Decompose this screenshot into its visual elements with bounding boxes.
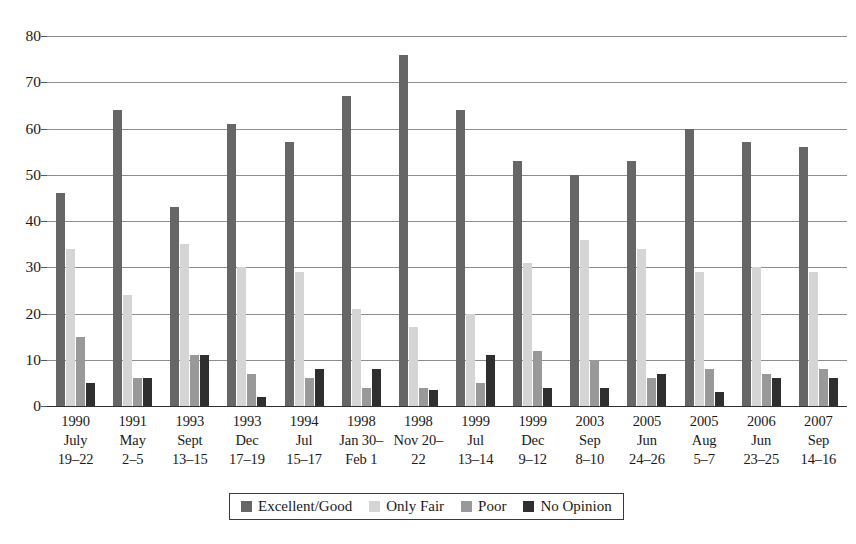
x-tick-label-line: 2–5 [104, 450, 161, 469]
bar [133, 378, 142, 406]
legend-item[interactable]: Excellent/Good [241, 498, 352, 515]
bar-group [790, 36, 847, 406]
legend-swatch-icon [369, 501, 380, 512]
y-tick-label-10: 10 [7, 352, 41, 368]
bar [123, 295, 132, 406]
bar-group [47, 36, 104, 406]
x-tick-label: 2006Jun23–25 [733, 412, 790, 469]
x-tick-label-line: 9–12 [504, 450, 561, 469]
x-tick-label-line: 2005 [676, 412, 733, 431]
x-tick-label-line: Sep [790, 431, 847, 450]
x-tick-label-line: 1993 [218, 412, 275, 431]
x-tick-label-line: 2005 [618, 412, 675, 431]
x-tick-label-line: Sept [161, 431, 218, 450]
x-tick-label: 1998Jan 30–Feb 1 [333, 412, 390, 469]
x-tick-label-line: 1991 [104, 412, 161, 431]
x-tick-label-line: 1999 [504, 412, 561, 431]
y-tick-label-60: 60 [7, 121, 41, 137]
bar [829, 378, 838, 406]
x-tick-label-line: 2003 [561, 412, 618, 431]
bar [533, 351, 542, 407]
x-tick-label: 2007Sep14–16 [790, 412, 847, 469]
bar-group [104, 36, 161, 406]
bar [285, 142, 294, 406]
x-tick-label: 1998Nov 20–22 [390, 412, 447, 469]
bar [56, 193, 65, 406]
bar [305, 378, 314, 406]
bar [86, 383, 95, 406]
bar-groups [47, 36, 847, 406]
bar [409, 327, 418, 406]
bar [237, 267, 246, 406]
bar-group [733, 36, 790, 406]
legend-item[interactable]: Poor [461, 498, 506, 515]
bar [647, 378, 656, 406]
x-tick-label-line: 1998 [333, 412, 390, 431]
y-tick-label-30: 30 [7, 259, 41, 275]
bar-group [333, 36, 390, 406]
bar [399, 55, 408, 407]
bar [76, 337, 85, 406]
bar [170, 207, 179, 406]
y-tick-label-20: 20 [7, 306, 41, 322]
bar [762, 374, 771, 406]
y-axis: 01020304050607080 [0, 36, 41, 406]
bar [715, 392, 724, 406]
bar [685, 129, 694, 407]
bar [66, 249, 75, 406]
x-tick-label-line: July [47, 431, 104, 450]
x-tick-label-line: Dec [218, 431, 275, 450]
legend-item[interactable]: Only Fair [369, 498, 444, 515]
x-tick-label-line: 8–10 [561, 450, 618, 469]
chart-legend: Excellent/GoodOnly FairPoorNo Opinion [229, 493, 624, 520]
x-tick-label-line: 13–15 [161, 450, 218, 469]
bar [456, 110, 465, 406]
x-tick-label-line: 17–19 [218, 450, 275, 469]
bar [752, 267, 761, 406]
bar [809, 272, 818, 406]
x-tick-label-line: 2007 [790, 412, 847, 431]
bar [570, 175, 579, 406]
bar [819, 369, 828, 406]
x-axis-labels: 1990July19–221991May2–51993Sept13–151993… [47, 412, 847, 469]
bar [772, 378, 781, 406]
bar [543, 388, 552, 407]
x-tick-label: 1993Sept13–15 [161, 412, 218, 469]
bar [705, 369, 714, 406]
legend-label: Poor [478, 498, 506, 515]
x-tick-label-line: 23–25 [733, 450, 790, 469]
bar [295, 272, 304, 406]
bar [466, 314, 475, 407]
x-tick-label-line: 24–26 [618, 450, 675, 469]
bar [637, 249, 646, 406]
legend-swatch-icon [241, 501, 252, 512]
x-tick-label-line: Jul [447, 431, 504, 450]
x-tick-label: 2005Jun24–26 [618, 412, 675, 469]
bar [486, 355, 495, 406]
bar-group [276, 36, 333, 406]
bar [419, 388, 428, 407]
bar [190, 355, 199, 406]
legend-label: Excellent/Good [258, 498, 352, 515]
x-tick-label-line: 22 [390, 450, 447, 469]
bar [580, 240, 589, 407]
legend-label: Only Fair [386, 498, 444, 515]
x-tick-label: 2003Sep8–10 [561, 412, 618, 469]
bar [200, 355, 209, 406]
x-tick-label-line: 13–14 [447, 450, 504, 469]
bar-chart: 01020304050607080 1990July19–221991May2–… [0, 0, 856, 544]
x-tick-label-line: May [104, 431, 161, 450]
bar [476, 383, 485, 406]
x-tick-label-line: Feb 1 [333, 450, 390, 469]
bar [315, 369, 324, 406]
x-tick-label-line: Jan 30– [333, 431, 390, 450]
bar [513, 161, 522, 406]
legend-item[interactable]: No Opinion [523, 498, 611, 515]
legend-swatch-icon [461, 501, 472, 512]
x-tick-label-line: Aug [676, 431, 733, 450]
bar [600, 388, 609, 407]
bar [342, 96, 351, 406]
bar [695, 272, 704, 406]
bar [523, 263, 532, 406]
bar [429, 390, 438, 406]
